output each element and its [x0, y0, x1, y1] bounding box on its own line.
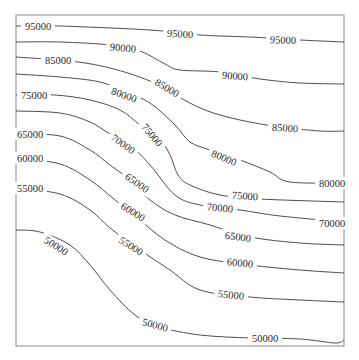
contour-label-text: 70000 — [206, 201, 233, 214]
contour-label-70000: 70000 — [315, 217, 349, 229]
contour-line-75000 — [16, 95, 344, 202]
contour-label-text: 95000 — [25, 21, 51, 32]
contour-label-text: 75000 — [232, 190, 259, 203]
contour-label-text: 55000 — [17, 183, 43, 194]
contour-label-55000: 55000 — [213, 287, 248, 302]
contour-label-50000: 50000 — [137, 315, 173, 335]
contour-label-90000: 90000 — [106, 41, 141, 56]
contour-labels: 9500095000950009000090000850008500085000… — [13, 20, 349, 344]
contour-label-text: 60000 — [17, 153, 43, 164]
contour-label-text: 65000 — [224, 230, 252, 245]
contour-label-text: 65000 — [17, 129, 43, 140]
contour-label-85000: 85000 — [268, 121, 303, 135]
contour-label-75000: 75000 — [228, 189, 263, 203]
contour-label-95000: 95000 — [163, 27, 198, 41]
contour-label-60000: 60000 — [115, 198, 150, 226]
contour-label-65000: 65000 — [13, 128, 47, 140]
contour-label-75000: 75000 — [136, 118, 167, 152]
contour-label-95000: 95000 — [266, 33, 300, 46]
contour-label-60000: 60000 — [13, 152, 47, 164]
contour-label-text: 60000 — [119, 200, 147, 223]
contour-label-text: 75000 — [21, 90, 47, 101]
contour-label-70000: 70000 — [203, 201, 238, 216]
contour-label-text: 90000 — [109, 41, 136, 54]
contour-label-60000: 60000 — [222, 255, 257, 270]
contour-label-85000: 85000 — [149, 74, 184, 101]
contour-label-65000: 65000 — [120, 168, 155, 197]
contour-label-text: 85000 — [45, 55, 71, 66]
contour-label-text: 50000 — [252, 333, 278, 344]
contour-label-text: 55000 — [117, 234, 145, 257]
contour-label-85000: 85000 — [41, 54, 75, 66]
contour-label-text: 80000 — [110, 85, 138, 104]
contour-label-90000: 90000 — [218, 69, 253, 83]
contour-label-text: 90000 — [222, 70, 249, 83]
contour-label-text: 95000 — [167, 28, 194, 40]
contour-label-50000: 50000 — [38, 232, 73, 261]
contour-label-text: 95000 — [270, 34, 297, 46]
contour-label-65000: 65000 — [220, 229, 255, 246]
contour-lines — [16, 26, 344, 343]
contour-label-75000: 75000 — [17, 89, 51, 101]
contour-label-80000: 80000 — [315, 177, 349, 189]
contour-label-80000: 80000 — [206, 146, 242, 170]
contour-label-55000: 55000 — [13, 182, 47, 194]
contour-label-text: 75000 — [139, 121, 164, 148]
contour-label-55000: 55000 — [113, 232, 148, 260]
contour-label-95000: 95000 — [21, 20, 55, 32]
contour-label-text: 70000 — [319, 218, 345, 229]
contour-label-text: 80000 — [319, 178, 345, 189]
contour-label-80000: 80000 — [106, 84, 142, 107]
contour-label-70000: 70000 — [106, 129, 141, 158]
contour-plot: 9500095000950009000090000850008500085000… — [0, 0, 359, 360]
contour-line-65000 — [16, 134, 344, 245]
contour-label-text: 85000 — [153, 77, 181, 100]
contour-label-50000: 50000 — [248, 332, 282, 344]
contour-label-text: 80000 — [210, 148, 238, 168]
contour-label-text: 85000 — [272, 122, 299, 134]
